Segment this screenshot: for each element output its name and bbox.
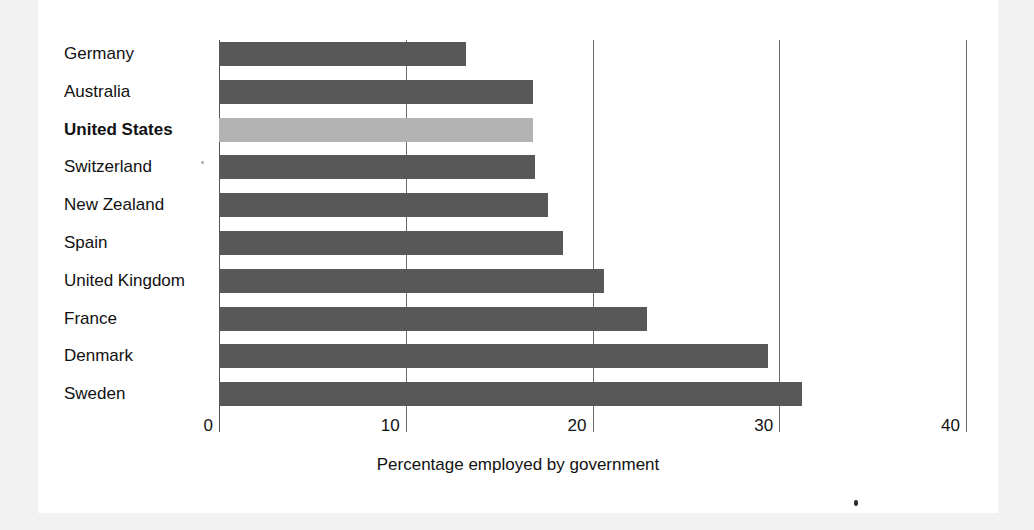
scan-speck bbox=[854, 500, 858, 506]
x-tick-label-20: 20 bbox=[527, 417, 587, 434]
category-label-germany: Germany bbox=[64, 45, 244, 62]
category-label-united-states: United States bbox=[64, 121, 244, 138]
bar-chart: GermanyAustraliaUnited StatesSwitzerland… bbox=[38, 0, 998, 513]
bar-australia[interactable] bbox=[219, 80, 533, 104]
category-label-new-zealand: New Zealand bbox=[64, 196, 244, 213]
x-tick-label-0: 0 bbox=[153, 417, 213, 434]
bar-new-zealand[interactable] bbox=[219, 193, 548, 217]
bar-switzerland[interactable] bbox=[219, 155, 535, 179]
bar-germany[interactable] bbox=[219, 42, 466, 66]
gridline-30 bbox=[779, 40, 780, 432]
category-label-australia: Australia bbox=[64, 83, 244, 100]
bar-spain[interactable] bbox=[219, 231, 563, 255]
bar-sweden[interactable] bbox=[219, 382, 802, 406]
x-axis-title: Percentage employed by government bbox=[38, 455, 998, 475]
figure-container: GermanyAustraliaUnited StatesSwitzerland… bbox=[0, 0, 1034, 530]
chart-card: GermanyAustraliaUnited StatesSwitzerland… bbox=[38, 0, 998, 513]
category-label-denmark: Denmark bbox=[64, 347, 244, 364]
x-tick-label-40: 40 bbox=[900, 417, 960, 434]
x-tick-label-30: 30 bbox=[713, 417, 773, 434]
category-label-france: France bbox=[64, 310, 244, 327]
x-tick-label-10: 10 bbox=[340, 417, 400, 434]
bar-denmark[interactable] bbox=[219, 344, 768, 368]
category-label-sweden: Sweden bbox=[64, 385, 244, 402]
scan-speck bbox=[201, 161, 204, 164]
category-label-spain: Spain bbox=[64, 234, 244, 251]
bar-united-kingdom[interactable] bbox=[219, 269, 604, 293]
gridline-20 bbox=[593, 40, 594, 432]
bar-united-states[interactable] bbox=[219, 118, 533, 142]
category-label-united-kingdom: United Kingdom bbox=[64, 272, 244, 289]
gridline-40 bbox=[966, 40, 967, 432]
category-label-switzerland: Switzerland bbox=[64, 158, 244, 175]
bar-france[interactable] bbox=[219, 307, 647, 331]
